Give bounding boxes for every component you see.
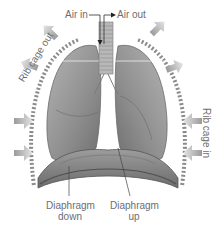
diaphragm-up-label: Diaphragm up [110,200,158,222]
lung-diagram: Air in Air out Rib cage out Rib cage in … [0,0,216,232]
diaphragm-down-line1: Diaphragm [46,200,94,211]
lung-illustration [0,0,216,232]
air-in-label: Air in [65,9,88,20]
diaphragm-down-line2: down [46,211,94,222]
rib-cage-in-label: Rib cage in [201,108,212,158]
air-out-label: Air out [117,9,146,20]
left-lung [47,45,101,161]
diaphragm-up-line1: Diaphragm [110,200,158,211]
diaphragm-up-line2: up [110,211,158,222]
diaphragm-down-label: Diaphragm down [46,200,94,222]
